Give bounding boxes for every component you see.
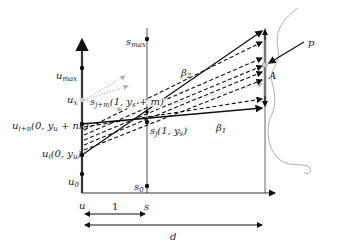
beta1-line (82, 108, 262, 124)
s-j-dot (145, 120, 149, 124)
s-bottom-label: s (144, 201, 149, 212)
one-label: 1 (112, 201, 118, 212)
beta2-label: β2 (180, 67, 192, 80)
A-label: A (268, 70, 276, 81)
diagram-canvas: umax ux ui+n(0, yu + nk) ui(0, yu) u0 sm… (0, 0, 340, 252)
s-j-m-label: sj+m(1, ys + m) (90, 96, 164, 109)
beta2-line (82, 31, 262, 155)
d-label: d (170, 231, 176, 242)
u-i-n-label: ui+n(0, yu + nk) (12, 120, 89, 133)
s-0-dot (145, 184, 149, 188)
p-arrow (269, 42, 304, 63)
u-i-label: ui(0, yu) (42, 148, 82, 161)
point-A (263, 63, 268, 68)
beta1-label: β1 (215, 122, 226, 135)
u-x-dot (80, 98, 84, 102)
boundary-curve (268, 8, 310, 174)
p-label: p (308, 37, 315, 48)
u-x-label: ux (67, 94, 77, 107)
u-0-label: u0 (68, 176, 79, 189)
u-0-dot (80, 172, 84, 176)
s-0-label: s0 (134, 181, 144, 194)
s-max-label: smax (126, 36, 146, 49)
u-max-label: umax (56, 70, 77, 83)
u-max-dot (80, 66, 84, 70)
s-j-label: sj(1, ys) (150, 125, 187, 138)
u-bottom-label: u (79, 200, 85, 211)
